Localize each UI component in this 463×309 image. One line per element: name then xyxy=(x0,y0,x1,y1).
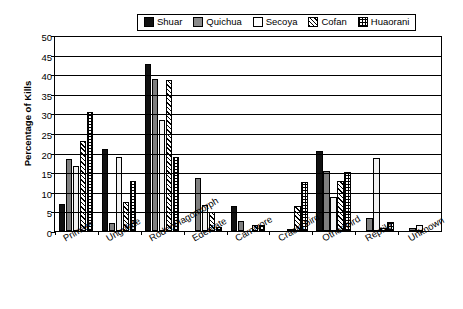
y-axis-tick-label: 5 xyxy=(22,208,52,219)
y-axis-tick-label: 25 xyxy=(22,130,52,141)
bar xyxy=(373,158,380,231)
plot-frame: 05101520253035404550 xyxy=(54,36,442,232)
legend-swatch-icon xyxy=(193,17,203,27)
bar xyxy=(152,79,159,231)
plot-area: 05101520253035404550 xyxy=(54,36,442,232)
legend-item-cofan: Cofan xyxy=(308,17,346,27)
chart-legend: ShuarQuichuaSecoyaCofanHuaorani xyxy=(137,14,416,31)
y-axis-tick-label: 45 xyxy=(22,51,52,62)
gridline xyxy=(55,193,441,194)
chart-page: ShuarQuichuaSecoyaCofanHuaorani Percenta… xyxy=(0,0,463,309)
y-axis-tick-label: 15 xyxy=(22,169,52,180)
y-axis-tick-label: 50 xyxy=(22,32,52,43)
y-axis-tick xyxy=(51,154,55,155)
bar xyxy=(116,157,123,231)
legend-item-shuar: Shuar xyxy=(144,17,182,27)
x-axis-labels: PrimateUngulateRodent/lagomorphEdentateC… xyxy=(54,234,442,304)
bar xyxy=(323,171,330,231)
y-axis-tick xyxy=(51,173,55,174)
y-axis-tick xyxy=(51,56,55,57)
gridline xyxy=(55,75,441,76)
y-axis-tick-label: 30 xyxy=(22,110,52,121)
bar xyxy=(102,149,109,231)
y-axis-tick-label: 40 xyxy=(22,71,52,82)
y-axis-tick-label: 10 xyxy=(22,188,52,199)
bar xyxy=(159,120,166,231)
legend-swatch-icon xyxy=(358,17,368,27)
bar xyxy=(59,204,66,231)
gridline xyxy=(55,95,441,96)
y-axis-tick xyxy=(51,95,55,96)
y-axis-tick-label: 20 xyxy=(22,149,52,160)
gridline xyxy=(55,212,441,213)
legend-item-quichua: Quichua xyxy=(193,17,241,27)
legend-swatch-icon xyxy=(144,17,154,27)
bar xyxy=(231,206,238,231)
y-axis-tick-label: 0 xyxy=(22,228,52,239)
legend-label: Secoya xyxy=(266,17,298,27)
bar xyxy=(66,159,73,231)
gridline xyxy=(55,173,441,174)
y-axis-tick xyxy=(51,212,55,213)
gridline xyxy=(55,114,441,115)
gridline xyxy=(55,56,441,57)
bar xyxy=(166,80,173,231)
legend-label: Shuar xyxy=(157,17,182,27)
y-axis-tick xyxy=(51,75,55,76)
legend-item-secoya: Secoya xyxy=(253,17,298,27)
legend-label: Huaorani xyxy=(371,17,410,27)
y-axis-tick xyxy=(51,193,55,194)
gridline xyxy=(55,134,441,135)
y-axis-tick xyxy=(51,114,55,115)
y-axis-tick xyxy=(51,134,55,135)
y-axis-tick xyxy=(51,232,55,233)
y-axis-tick-label: 35 xyxy=(22,90,52,101)
bar xyxy=(73,166,80,231)
bar xyxy=(145,64,152,231)
legend-label: Cofan xyxy=(321,17,346,27)
legend-swatch-icon xyxy=(308,17,318,27)
legend-swatch-icon xyxy=(253,17,263,27)
legend-label: Quichua xyxy=(206,17,241,27)
gridline xyxy=(55,154,441,155)
y-axis-tick xyxy=(51,36,55,37)
legend-item-huaorani: Huaorani xyxy=(358,17,410,27)
